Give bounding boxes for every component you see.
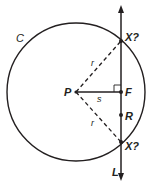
radius-top-label: r [91, 58, 95, 68]
geometry-diagram: C P X? X? F R L r r s [0, 0, 155, 187]
point-x-bottom [119, 140, 123, 144]
point-r [119, 113, 123, 117]
center-label: P [64, 86, 72, 98]
point-p [74, 90, 77, 93]
radius-bottom-label: r [91, 118, 95, 128]
x-top-label: X? [124, 31, 139, 43]
point-x-top [119, 39, 123, 43]
radius-top-segment [76, 41, 121, 92]
point-f [119, 90, 123, 94]
segment-s-label: s [97, 94, 102, 104]
f-label: F [125, 86, 132, 98]
r-point-label: R [125, 110, 133, 122]
x-bottom-label: X? [124, 140, 139, 152]
line-label: L [112, 166, 119, 178]
arrow-down-icon [118, 173, 124, 181]
arrow-up-icon [118, 5, 124, 13]
circle-label: C [16, 32, 24, 44]
